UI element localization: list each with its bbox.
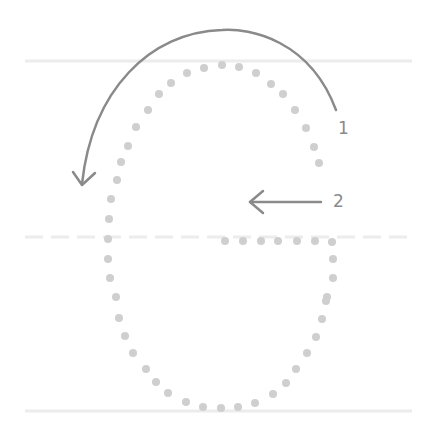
guide-dot <box>279 90 287 98</box>
guide-dot <box>117 158 125 166</box>
step-2-label: 2 <box>333 193 344 210</box>
guide-dot <box>328 238 336 246</box>
guide-dot <box>318 315 326 323</box>
guide-dot <box>124 142 132 150</box>
guide-dot <box>142 365 150 373</box>
guide-dot <box>329 274 337 282</box>
guide-dot <box>291 106 299 114</box>
guide-dot <box>312 333 320 341</box>
guide-dot <box>152 378 160 386</box>
guide-dot <box>252 69 260 77</box>
guide-dot <box>293 237 301 245</box>
guide-dot <box>200 64 208 72</box>
letter-g-diagram <box>0 0 434 442</box>
guide-dot <box>129 349 137 357</box>
guide-dot <box>107 195 115 203</box>
guide-dot <box>292 365 300 373</box>
guide-dot <box>104 235 112 243</box>
guide-dot <box>221 237 229 245</box>
guide-dot <box>182 398 190 406</box>
guide-dot <box>105 215 113 223</box>
guide-dot <box>329 255 337 263</box>
guide-dot <box>257 237 265 245</box>
guide-dot <box>115 314 123 322</box>
guide-dot <box>251 399 259 407</box>
guide-dot <box>303 349 311 357</box>
guide-dot <box>323 293 331 301</box>
guide-dot <box>155 90 163 98</box>
guide-dot <box>112 293 120 301</box>
guide-dot <box>235 63 243 71</box>
stroke-2-straight-arrow-icon <box>250 191 321 213</box>
guide-dot <box>311 237 319 245</box>
guide-dot <box>104 255 112 263</box>
guide-dot <box>218 61 226 69</box>
guide-dot <box>282 379 290 387</box>
guide-dot <box>183 69 191 77</box>
guide-dot <box>167 79 175 87</box>
guide-dot <box>217 404 225 412</box>
guide-dot <box>302 124 310 132</box>
guide-dot <box>267 80 275 88</box>
step-1-label: 1 <box>338 120 349 137</box>
guide-dot <box>132 123 140 131</box>
guide-dot <box>269 390 277 398</box>
guide-dot <box>234 403 242 411</box>
guide-dot <box>106 274 114 282</box>
guide-dot <box>199 403 207 411</box>
guide-dot <box>239 237 247 245</box>
guide-dot <box>310 143 318 151</box>
guide-dot <box>121 332 129 340</box>
guide-dot <box>315 159 323 167</box>
guide-dot <box>113 176 121 184</box>
guide-dot <box>274 237 282 245</box>
guide-dot <box>164 389 172 397</box>
guide-dot <box>144 106 152 114</box>
